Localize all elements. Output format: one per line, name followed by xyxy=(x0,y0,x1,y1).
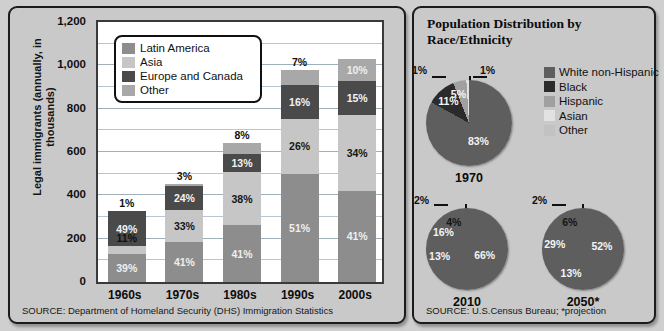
pie-legend-swatch-icon xyxy=(544,96,555,107)
bar-1990s: 7%16%26%51% xyxy=(281,70,319,282)
bar-segment-latin-america: 41% xyxy=(223,225,261,282)
legend-label: Latin America xyxy=(140,42,210,54)
bar-segment-value: 13% xyxy=(231,157,252,169)
bar-segment-other: 7% xyxy=(281,70,319,85)
pie-legend-label: White non-Hispanic xyxy=(559,66,659,78)
pie-slice-label: 52% xyxy=(591,240,612,252)
bar-segment-other: 10% xyxy=(338,59,376,81)
bar-segment-europe-and-canada: 13% xyxy=(223,154,261,172)
pie-slice-label: 1% xyxy=(480,64,495,76)
bar-segment-europe-and-canada: 16% xyxy=(281,85,319,119)
pie-legend-label: Hispanic xyxy=(559,95,603,107)
pie-chart-2050: 2%52%13%29%6%2050* xyxy=(542,208,624,290)
bar-1980s: 8%13%38%41% xyxy=(223,143,261,282)
pie-slice-label: 6% xyxy=(562,216,577,228)
bar-segment-value: 26% xyxy=(289,140,310,152)
bar-segment-value: 15% xyxy=(347,92,368,104)
pie-chart-legend: White non-HispanicBlackHispanicAsianOthe… xyxy=(544,65,659,138)
bar-segment-value: 7% xyxy=(281,56,319,68)
bar-segment-value: 51% xyxy=(289,222,310,234)
pie-legend-item-other: Other xyxy=(544,123,659,138)
pie-leader-line xyxy=(434,204,448,206)
pie-legend-swatch-icon xyxy=(544,125,555,136)
pie-legend-swatch-icon xyxy=(544,110,555,121)
legend-swatch-icon xyxy=(122,43,135,54)
bar-segment-value: 33% xyxy=(174,220,195,232)
bar-segment-latin-america: 51% xyxy=(281,174,319,282)
bar-segment-value: 3% xyxy=(165,170,203,182)
legend-label: Other xyxy=(140,84,169,96)
bar-segment-europe-and-canada: 15% xyxy=(338,81,376,114)
population-distribution-panel: Population Distribution by Race/Ethnicit… xyxy=(412,6,656,324)
pie-slice-label: 4% xyxy=(446,216,461,228)
pie-chart-source: SOURCE: U.S.Census Bureau; *projection xyxy=(426,305,606,316)
pie-leader-line xyxy=(552,204,566,206)
bar-1960s: 1%49%11%39% xyxy=(108,211,146,282)
x-axis-tick-1970s: 1970s xyxy=(149,288,215,302)
y-axis-tick: 800 xyxy=(16,102,86,114)
bar-segment-value: 8% xyxy=(223,129,261,141)
bar-segment-asia: 34% xyxy=(338,115,376,191)
bar-segment-value: 41% xyxy=(174,256,195,268)
x-axis-tick-1980s: 1980s xyxy=(207,288,273,302)
right-panel-title: Population Distribution by Race/Ethnicit… xyxy=(427,16,645,48)
bar-segment-latin-america: 39% xyxy=(108,254,146,282)
x-axis-tick-2000s: 2000s xyxy=(322,288,388,302)
bar-segment-value: 38% xyxy=(231,193,252,205)
pie-body: 66%13%16%4% xyxy=(426,208,508,290)
legend-item-asia: Asia xyxy=(122,55,254,69)
bar-segment-value: 34% xyxy=(347,147,368,159)
pie-legend-swatch-icon xyxy=(544,67,555,78)
bar-segment-asia: 26% xyxy=(281,119,319,174)
bar-segment-value: 1% xyxy=(108,197,146,209)
pie-legend-item-white-non-hispanic: White non-Hispanic xyxy=(544,65,659,80)
pie-chart-2010: 2%66%13%16%4%2010 xyxy=(426,208,508,290)
pie-slice-label: 29% xyxy=(544,238,565,250)
bar-segment-europe-and-canada: 24% xyxy=(165,186,203,209)
pie-slice-label: 83% xyxy=(468,135,489,147)
pie-chart-1970: 1%1%83%11%5%1970 xyxy=(426,80,512,166)
pie-leader-line xyxy=(473,76,487,78)
bar-2000s: 10%15%34%41% xyxy=(338,59,376,282)
pie-slice-label: 5% xyxy=(451,88,466,100)
pie-chart-caption: 1970 xyxy=(426,171,512,185)
legend-item-latin-america: Latin America xyxy=(122,41,254,55)
y-axis-tick: 1,000 xyxy=(16,58,86,70)
pie-body: 83%11%5% xyxy=(426,80,512,166)
pie-slice-label: 66% xyxy=(474,249,495,261)
x-axis-tick-1990s: 1990s xyxy=(265,288,331,302)
bar-segment-latin-america: 41% xyxy=(165,242,203,282)
bar-1970s: 3%24%33%41% xyxy=(165,184,203,282)
bar-segment-value: 41% xyxy=(347,230,368,242)
pie-legend-item-hispanic: Hispanic xyxy=(544,94,659,109)
bar-segment-value: 10% xyxy=(347,64,368,76)
y-axis-tick: 0 xyxy=(16,275,86,287)
pie-slice-label: 2% xyxy=(414,194,429,206)
bar-segment-value: 41% xyxy=(231,248,252,260)
legend-swatch-icon xyxy=(122,71,135,82)
pie-legend-swatch-icon xyxy=(544,81,555,92)
bar-segment-latin-america: 41% xyxy=(338,191,376,282)
y-axis-tick: 200 xyxy=(16,232,86,244)
bar-segment-value: 11% xyxy=(108,232,146,244)
pie-slice-label: 13% xyxy=(561,267,582,279)
y-axis-tick: 600 xyxy=(16,145,86,157)
pie-legend-label: Other xyxy=(559,124,588,136)
legend-label: Asia xyxy=(140,56,162,68)
pie-legend-label: Asian xyxy=(559,110,588,122)
bar-segment-asia: 11% xyxy=(108,246,146,254)
legend-swatch-icon xyxy=(122,57,135,68)
pie-legend-item-black: Black xyxy=(544,80,659,95)
legend-item-europe-and-canada: Europe and Canada xyxy=(122,69,254,83)
bar-segment-value: 16% xyxy=(289,96,310,108)
y-axis-tick: 1,200 xyxy=(16,15,86,27)
legend-label: Europe and Canada xyxy=(140,70,243,82)
bar-chart-source: SOURCE: Department of Homeland Security … xyxy=(22,305,333,316)
bar-segment-value: 39% xyxy=(116,262,137,274)
pie-legend-item-asian: Asian xyxy=(544,109,659,124)
bar-segment-other: 8% xyxy=(223,143,261,154)
pie-legend-label: Black xyxy=(559,81,587,93)
y-axis-tick: 400 xyxy=(16,188,86,200)
legend-swatch-icon xyxy=(122,85,135,96)
bar-segment-asia: 33% xyxy=(165,210,203,242)
